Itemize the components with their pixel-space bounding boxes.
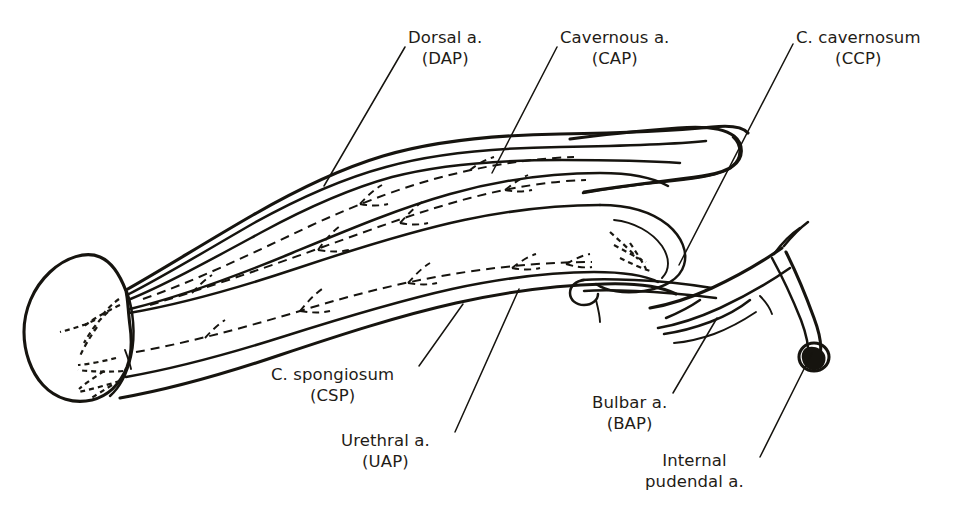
glans-vessel-network <box>60 299 123 399</box>
label-bulbar-artery: Bulbar a. (BAP) <box>592 392 667 434</box>
leader-bulbar <box>673 318 717 393</box>
perineal-branch-lower <box>674 312 756 343</box>
bulb-vessel-network <box>610 232 650 271</box>
leader-lines-group <box>324 44 812 457</box>
leader-urethral <box>455 289 519 432</box>
leader-spongiosum <box>419 304 463 366</box>
internal-pudendal-outer <box>786 252 821 355</box>
label-spongiosum-abbrev: (CSP) <box>271 385 394 406</box>
glans-penis-group <box>24 255 134 402</box>
label-corpus-spongiosum: C. spongiosum (CSP) <box>271 364 394 406</box>
label-urethral-artery: Urethral a. (UAP) <box>341 430 430 472</box>
internal-pudendal-inner <box>772 258 808 356</box>
spongiosum-lower-boundary <box>126 272 658 377</box>
anatomy-figure: Dorsal a. (DAP) Cavernous a. (CAP) C. ca… <box>0 0 954 516</box>
bulbar-artery-hook-tail <box>596 300 600 322</box>
label-cavernous-name: Cavernous a. <box>560 27 669 48</box>
label-dorsal-abbrev: (DAP) <box>408 48 482 69</box>
bulb-inner-fold <box>614 220 668 278</box>
label-internal-pudendal-artery: Internal pudendal a. <box>645 450 744 492</box>
perineal-branch-upper <box>664 300 750 334</box>
label-bulbar-name: Bulbar a. <box>592 392 667 413</box>
label-pudendal-name-line1: Internal <box>645 450 744 471</box>
label-cavernous-artery: Cavernous a. (CAP) <box>560 27 669 69</box>
label-dorsal-artery: Dorsal a. (DAP) <box>408 27 482 69</box>
anatomy-drawing <box>0 0 954 516</box>
label-spongiosum-name: C. spongiosum <box>271 364 394 385</box>
urethral-artery-group <box>136 254 592 352</box>
label-urethral-name: Urethral a. <box>341 430 430 451</box>
dorsal-artery-branch-proximal-upper <box>784 222 808 246</box>
leader-ccp <box>679 44 793 265</box>
label-ccp-name: C. cavernosum <box>796 27 921 48</box>
arterial-fork-stub <box>760 296 772 314</box>
spongiosum-upper-boundary <box>129 205 600 313</box>
label-ccp-abbrev: (CCP) <box>796 48 921 69</box>
label-corpus-cavernosum: C. cavernosum (CCP) <box>796 27 921 69</box>
label-dorsal-name: Dorsal a. <box>408 27 482 48</box>
label-urethral-abbrev: (UAP) <box>341 451 430 472</box>
ventral-outer-outline <box>120 284 676 398</box>
leader-cavernous <box>492 47 557 173</box>
label-pudendal-name-line2: pudendal a. <box>645 471 744 492</box>
label-bulbar-abbrev: (BAP) <box>592 413 667 434</box>
cavernous-artery-main <box>150 180 586 305</box>
leader-pudendal <box>760 353 812 457</box>
label-cavernous-abbrev: (CAP) <box>560 48 669 69</box>
